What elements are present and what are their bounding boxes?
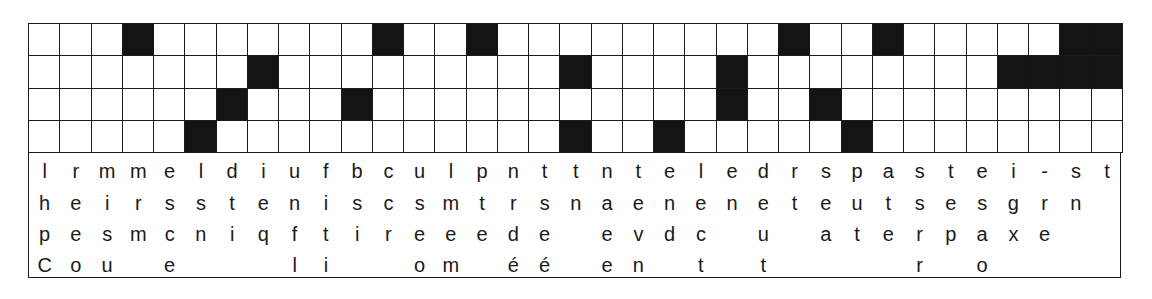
grid-cell[interactable] — [123, 89, 154, 121]
grid-cell[interactable] — [717, 121, 748, 153]
grid-cell-filled[interactable] — [717, 89, 748, 121]
grid-cell[interactable] — [498, 24, 529, 56]
grid-cell[interactable] — [810, 121, 841, 153]
grid-cell[interactable] — [654, 89, 685, 121]
grid-cell-filled[interactable] — [1092, 24, 1123, 56]
grid-cell[interactable] — [717, 24, 748, 56]
grid-cell[interactable] — [60, 89, 91, 121]
grid-cell[interactable] — [1029, 121, 1060, 153]
grid-cell[interactable] — [217, 24, 248, 56]
grid-cell[interactable] — [185, 89, 216, 121]
grid-cell[interactable] — [29, 56, 60, 88]
grid-cell[interactable] — [623, 56, 654, 88]
grid-cell[interactable] — [842, 56, 873, 88]
grid-cell[interactable] — [373, 56, 404, 88]
grid-cell[interactable] — [529, 56, 560, 88]
grid-cell[interactable] — [873, 121, 904, 153]
grid-cell[interactable] — [248, 24, 279, 56]
grid-cell[interactable] — [60, 24, 91, 56]
grid-cell-filled[interactable] — [998, 56, 1029, 88]
grid-cell[interactable] — [623, 121, 654, 153]
grid-cell[interactable] — [904, 121, 935, 153]
grid-cell-filled[interactable] — [123, 24, 154, 56]
grid-cell[interactable] — [154, 24, 185, 56]
grid-cell-filled[interactable] — [810, 89, 841, 121]
grid-cell[interactable] — [435, 24, 466, 56]
grid-cell[interactable] — [310, 24, 341, 56]
grid-cell-filled[interactable] — [1029, 56, 1060, 88]
grid-cell[interactable] — [404, 121, 435, 153]
grid-cell[interactable] — [498, 89, 529, 121]
grid-cell[interactable] — [873, 89, 904, 121]
grid-cell[interactable] — [779, 89, 810, 121]
grid-cell[interactable] — [248, 121, 279, 153]
grid-cell[interactable] — [592, 121, 623, 153]
grid-cell-filled[interactable] — [779, 24, 810, 56]
grid-cell[interactable] — [373, 121, 404, 153]
grid-cell[interactable] — [748, 89, 779, 121]
grid-cell[interactable] — [967, 56, 998, 88]
grid-cell[interactable] — [529, 89, 560, 121]
grid-cell[interactable] — [310, 121, 341, 153]
grid-cell[interactable] — [1060, 121, 1091, 153]
grid-cell[interactable] — [967, 89, 998, 121]
grid-cell[interactable] — [310, 89, 341, 121]
grid-cell-filled[interactable] — [560, 121, 591, 153]
grid-cell[interactable] — [404, 24, 435, 56]
grid-cell[interactable] — [685, 24, 716, 56]
grid-cell[interactable] — [560, 89, 591, 121]
grid-cell[interactable] — [217, 121, 248, 153]
grid-cell[interactable] — [1029, 89, 1060, 121]
grid-cell[interactable] — [935, 121, 966, 153]
grid-cell[interactable] — [92, 121, 123, 153]
grid-cell[interactable] — [92, 89, 123, 121]
grid-cell-filled[interactable] — [654, 121, 685, 153]
grid-cell[interactable] — [1092, 121, 1123, 153]
grid-cell-filled[interactable] — [560, 56, 591, 88]
grid-cell[interactable] — [998, 24, 1029, 56]
grid-cell[interactable] — [998, 89, 1029, 121]
grid-cell-filled[interactable] — [342, 89, 373, 121]
grid-cell[interactable] — [810, 56, 841, 88]
grid-cell[interactable] — [154, 56, 185, 88]
grid-cell-filled[interactable] — [717, 56, 748, 88]
grid-cell[interactable] — [279, 56, 310, 88]
grid-cell-filled[interactable] — [373, 24, 404, 56]
grid-cell[interactable] — [748, 56, 779, 88]
grid-cell-filled[interactable] — [842, 121, 873, 153]
grid-cell[interactable] — [560, 24, 591, 56]
grid-cell[interactable] — [592, 24, 623, 56]
grid-cell[interactable] — [498, 56, 529, 88]
grid-cell-filled[interactable] — [1060, 24, 1091, 56]
grid-cell[interactable] — [873, 56, 904, 88]
grid-cell[interactable] — [467, 89, 498, 121]
grid-cell[interactable] — [935, 56, 966, 88]
grid-cell-filled[interactable] — [248, 56, 279, 88]
grid-cell[interactable] — [435, 56, 466, 88]
grid-cell[interactable] — [685, 121, 716, 153]
grid-cell[interactable] — [935, 24, 966, 56]
grid-cell[interactable] — [842, 89, 873, 121]
grid-cell-filled[interactable] — [1060, 56, 1091, 88]
grid-cell-filled[interactable] — [873, 24, 904, 56]
grid-cell[interactable] — [592, 56, 623, 88]
grid-cell[interactable] — [810, 24, 841, 56]
grid-cell[interactable] — [685, 56, 716, 88]
grid-cell[interactable] — [29, 89, 60, 121]
grid-cell[interactable] — [404, 56, 435, 88]
grid-cell[interactable] — [92, 56, 123, 88]
grid-cell-filled[interactable] — [467, 24, 498, 56]
grid-cell-filled[interactable] — [217, 89, 248, 121]
grid-cell[interactable] — [1092, 89, 1123, 121]
grid-cell[interactable] — [967, 121, 998, 153]
grid-cell[interactable] — [154, 89, 185, 121]
grid-cell[interactable] — [404, 89, 435, 121]
grid-cell[interactable] — [592, 89, 623, 121]
grid-cell[interactable] — [529, 121, 560, 153]
grid-cell[interactable] — [185, 56, 216, 88]
grid-cell-filled[interactable] — [1092, 56, 1123, 88]
grid-cell[interactable] — [779, 121, 810, 153]
grid-cell[interactable] — [373, 89, 404, 121]
grid-cell[interactable] — [1060, 89, 1091, 121]
grid-cell[interactable] — [904, 89, 935, 121]
